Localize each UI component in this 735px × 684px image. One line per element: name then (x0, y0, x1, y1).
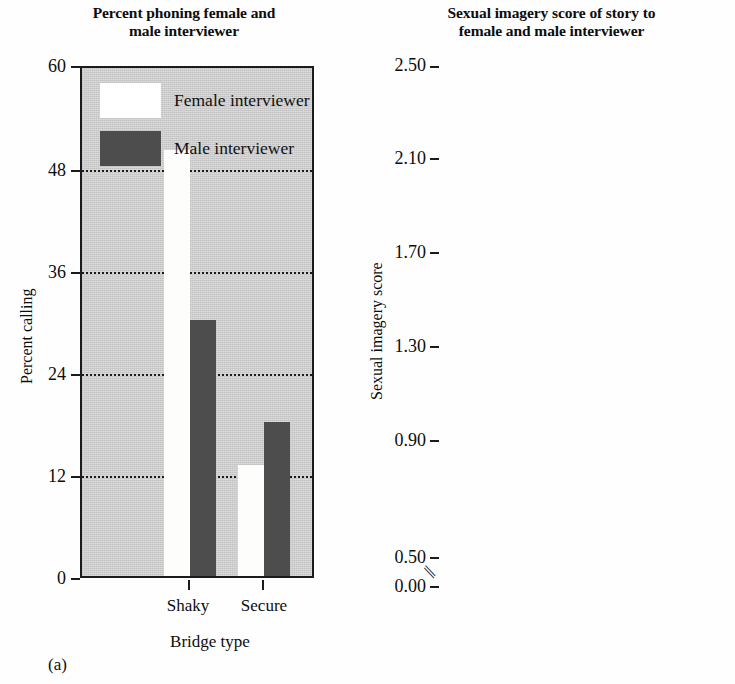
legend-item-female-a[interactable]: Female interviewer (100, 80, 310, 120)
panel-a-title-line-2: male interviewer (0, 22, 368, 40)
legend-label-male-a: Male interviewer (174, 138, 294, 159)
panel-a-ytick-label-36: 36 (20, 263, 66, 281)
legend-item-male-a[interactable]: Male interviewer (100, 128, 310, 168)
panel-a-gridline-36 (82, 272, 312, 274)
panel-b-ytick-label-090: 0.90 (370, 431, 426, 449)
panel-a-ytick-36 (71, 272, 80, 274)
figure-container: Percent phoning female and male intervie… (0, 0, 735, 684)
panel-b: Sexual imagery score of story to female … (368, 0, 735, 684)
panel-b-ytick-210 (430, 158, 439, 160)
panel-a: Percent phoning female and male intervie… (0, 0, 368, 684)
panel-a-ytick-0 (71, 578, 80, 580)
panel-b-ytick-label-000: 0.00 (370, 577, 426, 595)
panel-a-plot-area: Female interviewer Male interviewer (80, 66, 314, 578)
male-swatch-icon (100, 131, 161, 166)
panel-b-title: Sexual imagery score of story to female … (368, 4, 735, 41)
panel-a-ytick-label-60: 60 (20, 57, 66, 75)
panel-a-ytick-label-12: 12 (20, 467, 66, 485)
panel-b-ytick-label-250: 2.50 (370, 56, 426, 74)
panel-b-ytick-000 (430, 586, 439, 588)
panel-b-y-axis-title: Sexual imagery score (368, 262, 386, 400)
panel-a-ytick-12 (71, 476, 80, 478)
panel-b-ytick-050 (430, 557, 439, 559)
panel-b-title-line-2: female and male interviewer (368, 22, 735, 40)
panel-a-title: Percent phoning female and male intervie… (0, 4, 368, 41)
panel-b-ytick-090 (430, 440, 439, 442)
panel-a-legend: Female interviewer Male interviewer (100, 80, 310, 176)
panel-a-xtick-secure (262, 580, 264, 590)
bar-a-secure-female[interactable] (238, 465, 264, 576)
panel-a-ytick-label-48: 48 (20, 161, 66, 179)
panel-a-ytick-48 (71, 170, 80, 172)
female-swatch-icon (100, 83, 161, 118)
panel-a-ytick-label-0: 0 (20, 569, 66, 587)
panel-a-y-axis-title: Percent calling (18, 288, 36, 384)
panel-a-ytick-60 (71, 66, 80, 68)
panel-b-ytick-250 (430, 66, 439, 68)
panel-a-xtick-shaky (188, 580, 190, 590)
panel-b-title-line-1: Sexual imagery score of story to (368, 4, 735, 22)
panel-a-xlabel-shaky: Shaky (148, 596, 228, 616)
panel-a-xlabel-secure: Secure (224, 596, 304, 616)
panel-a-letter: (a) (48, 655, 67, 675)
panel-b-ytick-label-170: 1.70 (370, 243, 426, 261)
panel-a-x-axis-title: Bridge type (130, 632, 290, 652)
panel-b-ytick-170 (430, 252, 439, 254)
bar-a-secure-male[interactable] (264, 422, 290, 576)
bar-a-shaky-female[interactable] (164, 150, 190, 576)
panel-b-ytick-label-210: 2.10 (370, 149, 426, 167)
panel-b-ytick-130 (430, 346, 439, 348)
panel-b-ytick-label-050: 0.50 (370, 548, 426, 566)
bar-a-shaky-male[interactable] (190, 320, 216, 576)
legend-label-female-a: Female interviewer (174, 90, 310, 111)
panel-a-ytick-24 (71, 374, 80, 376)
panel-a-title-line-1: Percent phoning female and (0, 4, 368, 22)
